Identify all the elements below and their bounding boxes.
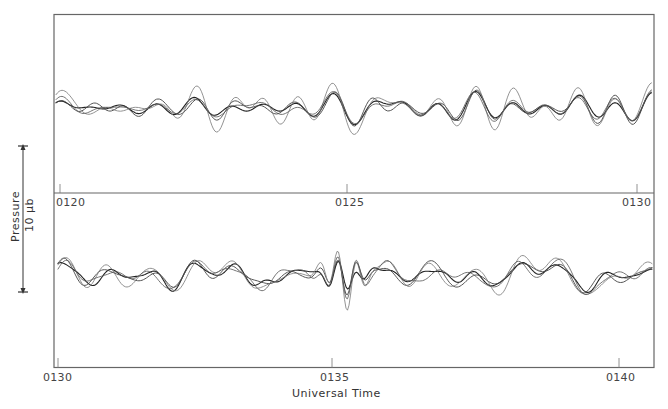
x-axis-title: Universal Time: [292, 387, 381, 400]
upper-panel-traces: [56, 83, 652, 134]
pressure-trace: [56, 92, 652, 125]
tick-label-upper-0: 0120: [56, 196, 85, 209]
scale-title: Pressure: [9, 191, 22, 242]
pressure-scale-bar: Pressure 10 μb: [9, 144, 36, 294]
tick-label-upper-1: 0125: [335, 196, 364, 209]
tick-label-lower-2: 0140: [606, 371, 635, 384]
lower-x-axis: 0130 0135 0140 Universal Time: [43, 358, 635, 400]
scale-value: 10 μb: [23, 198, 36, 232]
arrow-down-icon: [21, 288, 26, 294]
microbarograph-chart: 0120 0125 0130 0130 0135 0140 Universal …: [0, 0, 668, 409]
pressure-trace: [56, 90, 652, 126]
arrow-up-icon: [21, 144, 26, 150]
plot-frame: [54, 15, 654, 368]
upper-x-axis: 0120 0125 0130: [56, 184, 651, 209]
tick-label-upper-2: 0130: [622, 196, 651, 209]
lower-panel-traces: [58, 251, 652, 310]
tick-label-lower-1: 0135: [320, 371, 349, 384]
tick-label-lower-0: 0130: [43, 371, 72, 384]
